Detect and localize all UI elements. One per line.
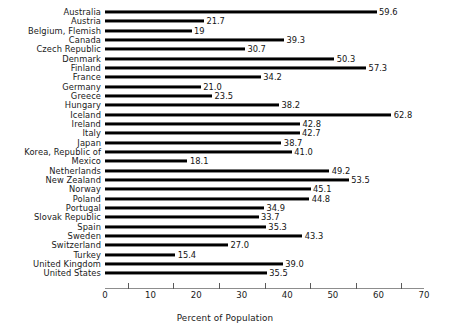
category-label: Australia <box>63 8 101 16</box>
bar-value-label: 39.0 <box>283 260 304 268</box>
bar-row: Hungary38.2 <box>0 101 450 110</box>
bar-value-label: 15.4 <box>175 250 196 258</box>
bar-value-label: 38.7 <box>281 138 302 146</box>
bar-value-label: 50.3 <box>334 54 355 62</box>
bar <box>105 244 228 247</box>
bar-value-label: 30.7 <box>245 45 266 53</box>
bar <box>105 122 300 125</box>
category-label: Canada <box>69 36 101 44</box>
category-label: Spain <box>77 222 101 230</box>
bar-value-label: 35.3 <box>266 222 287 230</box>
bar <box>105 272 267 275</box>
category-label: Norway <box>69 185 101 193</box>
bar-value-label: 27.0 <box>228 241 249 249</box>
bar <box>105 150 292 153</box>
x-axis-tick-label: 20 <box>191 291 202 300</box>
category-label: United States <box>44 269 101 277</box>
x-axis-tick-label: 0 <box>102 291 107 300</box>
bar-value-label: 43.3 <box>302 232 323 240</box>
category-label: Greece <box>71 92 101 100</box>
category-label: Poland <box>73 194 101 202</box>
bar <box>105 262 283 265</box>
category-label: Sweden <box>68 232 101 240</box>
category-label: France <box>73 73 101 81</box>
bar-chart: Australia59.6Austria21.7Belgium, Flemish… <box>0 0 450 335</box>
bar-value-label: 34.2 <box>261 73 282 81</box>
bar <box>105 132 300 135</box>
bar <box>105 216 259 219</box>
category-label: Denmark <box>62 54 101 62</box>
x-axis-tick-label: 70 <box>419 291 430 300</box>
bar <box>105 113 391 116</box>
bar-value-label: 57.3 <box>366 64 387 72</box>
bar-row: Australia59.6 <box>0 7 450 16</box>
x-axis-tick-label: 10 <box>145 291 156 300</box>
bar <box>105 234 302 237</box>
category-label: Korea, Republic of <box>24 148 101 156</box>
bar-value-label: 41.0 <box>292 148 313 156</box>
category-label: Hungary <box>65 101 101 109</box>
category-label: United Kingdom <box>33 260 101 268</box>
bar-value-label: 19 <box>192 27 205 35</box>
bar <box>105 38 284 41</box>
category-label: Austria <box>71 17 101 25</box>
bar-value-label: 33.7 <box>259 213 280 221</box>
bar-row: Norway45.1 <box>0 185 450 194</box>
bar-value-label: 45.1 <box>311 185 332 193</box>
bar-value-label: 34.9 <box>264 204 285 212</box>
bar-value-label: 39.3 <box>284 36 305 44</box>
bar-row: Switzerland27.0 <box>0 241 450 250</box>
bar <box>105 160 187 163</box>
category-label: Netherlands <box>49 166 101 174</box>
bar <box>105 178 349 181</box>
x-axis-tick-label: 30 <box>236 291 247 300</box>
category-label: Iceland <box>70 110 101 118</box>
bar-value-label: 42.7 <box>300 129 321 137</box>
category-label: Ireland <box>72 120 101 128</box>
x-axis-title: Percent of Population <box>0 313 450 323</box>
category-label: Finland <box>71 64 101 72</box>
category-label: Japan <box>77 138 101 146</box>
bar-row: Belgium, Flemish19 <box>0 26 450 35</box>
bar-row: Ireland42.8 <box>0 119 450 128</box>
bar <box>105 10 377 13</box>
bar-row: Korea, Republic of41.0 <box>0 147 450 156</box>
bar-row: Finland57.3 <box>0 63 450 72</box>
bar-value-label: 35.5 <box>267 269 288 277</box>
bar <box>105 94 212 97</box>
category-label: Italy <box>83 129 102 137</box>
category-label: Portugal <box>66 204 101 212</box>
bar <box>105 104 279 107</box>
bar <box>105 76 261 79</box>
bar <box>105 169 329 172</box>
bar-value-label: 59.6 <box>377 8 398 16</box>
bar-value-label: 38.2 <box>279 101 300 109</box>
bar-value-label: 21.7 <box>204 17 225 25</box>
x-axis-tick-label: 40 <box>282 291 293 300</box>
x-axis-minor-tick <box>173 283 174 289</box>
category-label: Mexico <box>71 157 101 165</box>
category-label: Czech Republic <box>36 45 101 53</box>
bar-row: Slovak Republic33.7 <box>0 213 450 222</box>
bar <box>105 57 334 60</box>
x-axis-minor-tick <box>128 283 129 289</box>
bar <box>105 48 245 51</box>
x-axis-minor-tick <box>310 283 311 289</box>
bar-row: New Zealand53.5 <box>0 175 450 184</box>
bar-value-label: 62.8 <box>391 110 412 118</box>
x-axis-minor-tick <box>356 283 357 289</box>
bar-row: United States35.5 <box>0 269 450 278</box>
bar <box>105 253 175 256</box>
bar <box>105 20 204 23</box>
bar <box>105 188 311 191</box>
bar <box>105 225 266 228</box>
x-axis-minor-tick <box>265 283 266 289</box>
bar-row: Iceland62.8 <box>0 110 450 119</box>
bar-value-label: 53.5 <box>349 176 370 184</box>
bar <box>105 141 281 144</box>
x-axis-tick-label: 50 <box>327 291 338 300</box>
category-label: Switzerland <box>52 241 102 249</box>
category-label: Slovak Republic <box>34 213 101 221</box>
bar-value-label: 44.8 <box>309 194 330 202</box>
category-label: New Zealand <box>45 176 101 184</box>
